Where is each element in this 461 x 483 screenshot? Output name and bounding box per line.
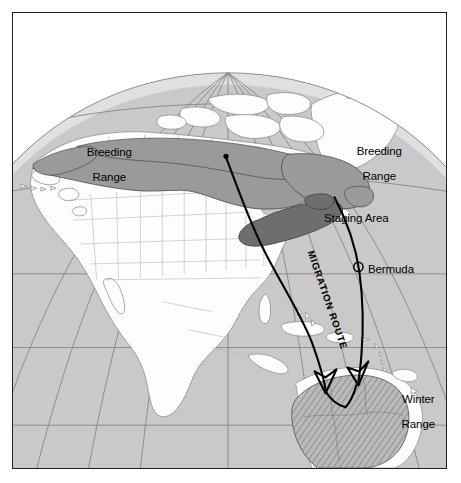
label-winter-range: Winter Range xyxy=(378,380,440,443)
label-breeding-range-east-line1: Breeding xyxy=(357,145,402,157)
label-winter-range-line2: Range xyxy=(402,418,435,430)
vancouver-island xyxy=(72,207,86,216)
banks-island xyxy=(157,115,186,129)
arctic-island-b xyxy=(267,93,311,115)
route-origin-dot xyxy=(223,154,228,159)
label-breeding-range-west-line1: Breeding xyxy=(87,146,132,158)
label-breeding-range-west-line2: Range xyxy=(93,171,126,183)
label-winter-range-line1: Winter xyxy=(402,393,435,405)
label-breeding-range-east-line2: Range xyxy=(363,170,396,182)
map-frame: Breeding Range Breeding Range Staging Ar… xyxy=(12,12,447,469)
label-bermuda: Bermuda xyxy=(368,263,438,276)
figure-page: Breeding Range Breeding Range Staging Ar… xyxy=(0,0,461,483)
label-breeding-range-west: Breeding Range xyxy=(61,133,139,196)
label-staging-area: Staging Area xyxy=(324,212,414,225)
label-breeding-range-east: Breeding Range xyxy=(335,132,405,195)
